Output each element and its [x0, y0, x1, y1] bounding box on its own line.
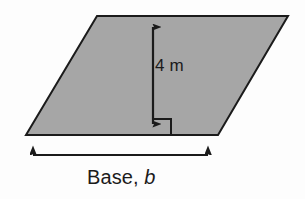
base-label-variable: b	[144, 166, 155, 188]
parallelogram-shape	[26, 16, 288, 135]
height-label: 4 m	[155, 57, 184, 74]
parallelogram-polygon	[26, 16, 288, 135]
parallelogram-area-diagram: 4 m Base, b	[0, 0, 305, 199]
base-label: Base, b	[87, 167, 156, 187]
base-label-prefix: Base,	[87, 166, 144, 188]
